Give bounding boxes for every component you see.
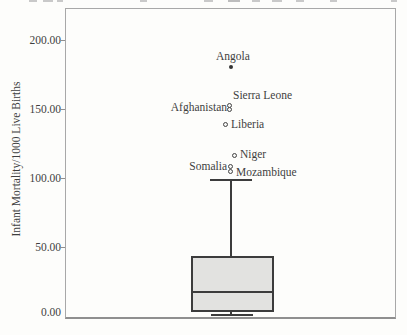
outlier-label-angola: Angola [216, 50, 250, 62]
clipped-text-fragment [204, 0, 213, 2]
y-tick-label-50: 50.00 [1, 241, 61, 253]
upper-whisker-cap [210, 179, 252, 181]
outlier-marker-mozambique [228, 169, 233, 174]
outlier-label-afghanistan: Afghanistan [171, 101, 227, 113]
outlier-marker-liberia [223, 122, 228, 127]
y-tick-label-100: 100.00 [1, 172, 61, 184]
clipped-text-fragment [391, 0, 397, 2]
clipped-text-fragment [29, 0, 37, 2]
y-tick-label-200: 200.00 [1, 34, 61, 46]
clipped-text-fragment [272, 0, 282, 2]
outlier-marker-niger [232, 153, 237, 158]
boxplot-figure: Infant Mortality/1000 Live Births 200.00… [0, 0, 407, 335]
lower-whisker-cap [211, 314, 253, 316]
clipped-text-fragment [252, 0, 260, 2]
outlier-label-somalia: Somalia [189, 160, 227, 172]
clipped-text-fragment [330, 0, 337, 2]
outlier-marker-afghanistan [227, 107, 232, 112]
clipped-text-fragment [43, 0, 53, 2]
median-line [191, 291, 274, 293]
outlier-label-sierra-leone: Sierra Leone [233, 89, 292, 101]
upper-whisker-line [230, 180, 232, 256]
clipped-text-fragment [57, 0, 63, 2]
outlier-label-niger: Niger [240, 148, 266, 160]
y-tick-label-0: 0.00 [1, 306, 61, 318]
iqr-box [191, 256, 274, 312]
outlier-label-liberia: Liberia [231, 118, 264, 130]
outlier-label-mozambique: Mozambique [236, 166, 297, 178]
clipped-text-fragment [228, 0, 240, 2]
outlier-marker-angola [229, 65, 233, 69]
y-tick-label-150: 150.00 [1, 103, 61, 115]
clipped-text-fragment [140, 0, 147, 2]
clipped-text-fragment [296, 0, 304, 2]
y-axis-title: Infant Mortality/1000 Live Births [10, 49, 22, 269]
